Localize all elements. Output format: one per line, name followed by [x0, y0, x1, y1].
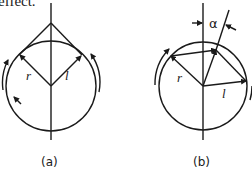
angle-label-b: α — [209, 16, 218, 31]
panel-label-a: (a) — [41, 155, 58, 169]
radius-r-b — [171, 56, 203, 86]
tangent-right-a — [51, 23, 82, 55]
rotation-arrow-left-b — [155, 49, 169, 85]
length-label-b: l — [222, 86, 226, 101]
radius-label-b: r — [177, 70, 183, 85]
alpha-arrow-right-b — [226, 25, 236, 30]
rotation-arrow-right-b — [250, 86, 252, 100]
panel-b — [155, 3, 252, 140]
radius-label-a: r — [26, 68, 32, 83]
figure-svg: r l (a) α r l (b) — [0, 0, 252, 170]
small-arrow-a — [14, 97, 21, 104]
panel-a — [2, 3, 99, 140]
panel-label-b: (b) — [193, 155, 210, 169]
tilted-line-b — [216, 10, 229, 50]
radius-r-a — [20, 55, 51, 86]
tilted-line-lower-b — [203, 50, 216, 86]
chord-b — [171, 50, 216, 56]
length-label-a: l — [65, 68, 69, 83]
tangent-left-a — [19, 23, 51, 55]
